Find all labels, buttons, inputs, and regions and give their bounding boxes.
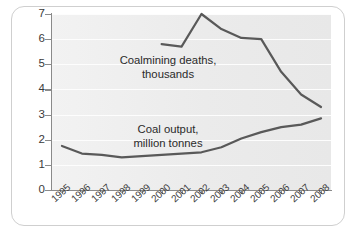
series-lines <box>0 0 362 237</box>
annotation-deaths-line2: thousands <box>108 67 228 81</box>
annotation-coalmining-deaths: Coalmining deaths, thousands <box>108 53 228 81</box>
annotation-output-line1: Coal output, <box>108 122 228 136</box>
chart-figure: 01234567 1995199619971998199920002001200… <box>0 0 362 237</box>
annotation-output-line2: million tonnes <box>108 136 228 150</box>
annotation-deaths-line1: Coalmining deaths, <box>108 53 228 67</box>
annotation-coal-output: Coal output, million tonnes <box>108 122 228 150</box>
